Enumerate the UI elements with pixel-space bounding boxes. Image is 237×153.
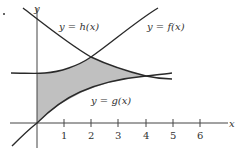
shaded-region — [37, 57, 146, 123]
x-tick-3: 3 — [115, 130, 121, 141]
curve-h-label: y = h(x) — [59, 21, 99, 32]
x-tick-1: 1 — [61, 130, 67, 141]
x-tick-5: 5 — [170, 130, 176, 141]
x-tick-2: 2 — [88, 130, 94, 141]
x-axis-label: x — [229, 118, 235, 129]
x-tick-6: 6 — [197, 130, 203, 141]
curve-g-label: y = g(x) — [91, 95, 131, 106]
x-tick-4: 4 — [143, 130, 149, 141]
curve-f-label: y = f(x) — [147, 21, 185, 32]
y-axis-label: y — [34, 3, 40, 14]
